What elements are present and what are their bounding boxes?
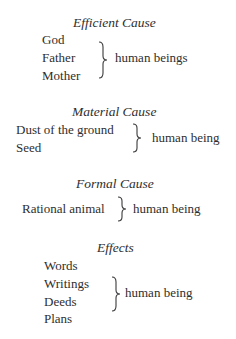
section-heading: Material Cause	[72, 103, 156, 121]
list-item: Dust of the ground	[16, 121, 114, 139]
list-item: Rational animal	[22, 200, 105, 218]
section-heading: Efficient Cause	[73, 14, 156, 32]
list-item: Mother	[42, 67, 80, 85]
section-heading: Formal Cause	[76, 175, 154, 193]
list-item: Father	[42, 49, 75, 67]
list-item: Plans	[44, 310, 72, 328]
right-brace-icon	[111, 276, 121, 312]
result-label: human beings	[115, 49, 188, 67]
right-brace-icon	[98, 41, 108, 79]
result-label: human being	[133, 200, 201, 218]
list-item: God	[42, 31, 64, 49]
result-label: human being	[125, 284, 193, 302]
list-item: Deeds	[44, 293, 77, 311]
list-item: Seed	[16, 139, 41, 157]
right-brace-icon	[117, 196, 127, 222]
list-item: Writings	[44, 275, 89, 293]
result-label: human being	[152, 129, 220, 147]
right-brace-icon	[132, 123, 142, 153]
list-item: Words	[44, 257, 78, 275]
section-heading: Effects	[97, 239, 134, 257]
